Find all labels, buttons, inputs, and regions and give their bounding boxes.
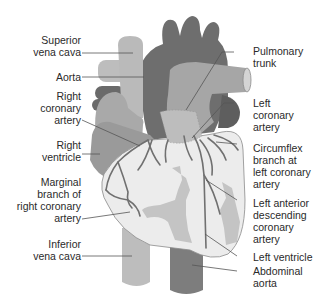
label-abdominal-aorta: Abdominal aorta	[253, 265, 303, 289]
heart-diagram: Superior vena cava Aorta Right coronary …	[0, 0, 325, 303]
label-aorta: Aorta	[56, 71, 81, 83]
label-pulmonary-trunk: Pulmonary trunk	[253, 45, 303, 69]
label-left-ventricle: Left ventricle	[253, 251, 313, 263]
label-right-ventricle: Right ventricle	[42, 139, 81, 163]
label-inferior-vena-cava: Inferior vena cava	[33, 238, 81, 262]
label-right-coronary-artery: Right coronary artery	[40, 90, 81, 126]
label-left-coronary-artery: Left coronary artery	[253, 97, 294, 133]
pulmonary-trunk-opening	[243, 68, 251, 92]
label-superior-vena-cava: Superior vena cava	[33, 34, 81, 58]
label-marginal-branch: Marginal branch of right coronary artery	[17, 176, 81, 224]
label-left-anterior-descending: Left anterior descending coronary artery	[253, 197, 309, 245]
label-circumflex-branch: Circumflex branch at left coronary arter…	[253, 142, 311, 190]
